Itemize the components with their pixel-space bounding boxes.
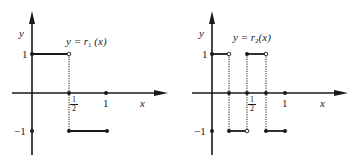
tick-dot-neg-one [210,129,214,133]
y-axis-arrow-icon [29,11,35,24]
closed-point [105,129,109,133]
x-tick-half: 12 [248,96,256,113]
x-tick-half-denominator: 2 [70,105,78,113]
tick-dot-one [283,91,287,95]
y-axis-arrow-icon [209,11,215,24]
open-point [227,52,231,56]
x-tick-one: 1 [282,98,288,109]
y-tick-one: 1 [22,49,28,60]
y-tick-neg-one: −1 [14,126,26,137]
function-label-arg: (x) [259,31,271,43]
function-label-prefix: y = r [66,35,88,47]
closed-point [210,52,214,56]
tick-dot-one [104,91,108,95]
y-axis-label: y [19,28,24,39]
closed-point [30,52,34,56]
x-axis-label: x [140,98,145,109]
chart-r1: y x y = r1 (x) 1 −1 12 1 [0,0,180,167]
x-axis-arrow-icon [154,90,168,96]
function-label: y = r1 (x) [66,36,107,49]
chart-r1-plot [0,0,180,167]
open-point [67,52,71,56]
function-label-arg: (x) [92,35,107,47]
x-tick-half: 12 [70,96,78,113]
closed-point [245,52,249,56]
closed-point [264,129,268,133]
y-tick-neg-one: −1 [194,126,206,137]
x-tick-one: 1 [103,98,109,109]
x-tick-half-denominator: 2 [248,105,256,113]
function-label-prefix: y = r [233,31,255,43]
open-point [245,129,249,133]
y-tick-one: 1 [202,49,208,60]
function-label: y = r2(x) [233,32,271,45]
open-point [264,52,268,56]
closed-point [283,129,287,133]
chart-r2: y x y = r2(x) 1 −1 12 1 [180,0,360,167]
closed-point [227,129,231,133]
chart-r2-plot [180,0,360,167]
closed-point [67,129,71,133]
x-axis-arrow-icon [334,90,348,96]
x-axis-label: x [320,98,325,109]
y-axis-label: y [199,28,204,39]
tick-dot-neg-one [30,129,34,133]
